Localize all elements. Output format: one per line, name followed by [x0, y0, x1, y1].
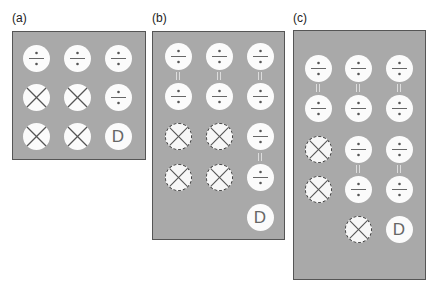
equal-link-icon — [257, 72, 263, 80]
dashed-cross-token-icon — [305, 136, 332, 163]
equal-link-icon — [216, 72, 222, 80]
divide-token-icon — [345, 176, 372, 203]
divide-token-icon — [23, 45, 50, 72]
equal-link-icon — [257, 153, 263, 161]
divide-token-icon — [305, 55, 332, 82]
dashed-cross-token-icon — [305, 176, 332, 203]
panel-b-label: (b) — [152, 11, 167, 25]
divide-token-icon — [386, 176, 413, 203]
d-token: D — [386, 216, 413, 243]
divide-token-icon — [386, 136, 413, 163]
divide-token-icon — [345, 136, 372, 163]
cross-token-icon — [23, 84, 50, 111]
divide-token-icon — [305, 95, 332, 122]
cross-token-icon — [23, 123, 50, 150]
d-token: D — [247, 204, 274, 231]
divide-token-icon — [247, 43, 274, 70]
dashed-cross-token-icon — [165, 123, 192, 150]
equal-link-icon — [396, 165, 402, 173]
divide-token-icon — [345, 95, 372, 122]
divide-token-icon — [105, 84, 132, 111]
d-token: D — [105, 123, 132, 150]
d-token-label: D — [247, 204, 274, 231]
dashed-cross-token-icon — [345, 216, 372, 243]
divide-token-icon — [206, 83, 233, 110]
cross-token-icon — [64, 84, 91, 111]
divide-token-icon — [105, 45, 132, 72]
divide-token-icon — [64, 45, 91, 72]
divide-token-icon — [247, 164, 274, 191]
equal-link-icon — [355, 165, 361, 173]
equal-link-icon — [175, 72, 181, 80]
cross-token-icon — [64, 123, 91, 150]
panel-a-label: (a) — [12, 11, 27, 25]
d-token-label: D — [105, 123, 132, 150]
dashed-cross-token-icon — [165, 164, 192, 191]
dashed-cross-token-icon — [206, 123, 233, 150]
d-token-label: D — [386, 216, 413, 243]
divide-token-icon — [345, 55, 372, 82]
dashed-cross-token-icon — [206, 164, 233, 191]
divide-token-icon — [247, 83, 274, 110]
panel-c-label: (c) — [293, 11, 307, 25]
divide-token-icon — [247, 123, 274, 150]
divide-token-icon — [386, 55, 413, 82]
divide-token-icon — [386, 95, 413, 122]
divide-token-icon — [206, 43, 233, 70]
equal-link-icon — [315, 84, 321, 92]
equal-link-icon — [355, 84, 361, 92]
divide-token-icon — [165, 43, 192, 70]
equal-link-icon — [396, 84, 402, 92]
divide-token-icon — [165, 83, 192, 110]
